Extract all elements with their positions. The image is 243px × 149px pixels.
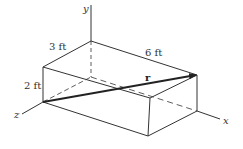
height-dimension-label: 2 ft — [24, 80, 41, 91]
vector-label-r: r — [145, 72, 151, 83]
x-axis — [197, 111, 220, 119]
box-vector-diagram: y z x 3 ft 6 ft 2 ft r — [0, 0, 243, 149]
z-axis — [22, 102, 43, 114]
length-dimension-label: 6 ft — [145, 47, 162, 58]
y-axis-label: y — [82, 3, 89, 14]
position-vector-r — [43, 75, 196, 102]
depth-dimension-label: 3 ft — [49, 41, 66, 52]
x-axis-hidden — [91, 77, 197, 111]
z-axis-label: z — [13, 109, 20, 120]
x-axis-label: x — [223, 115, 229, 126]
